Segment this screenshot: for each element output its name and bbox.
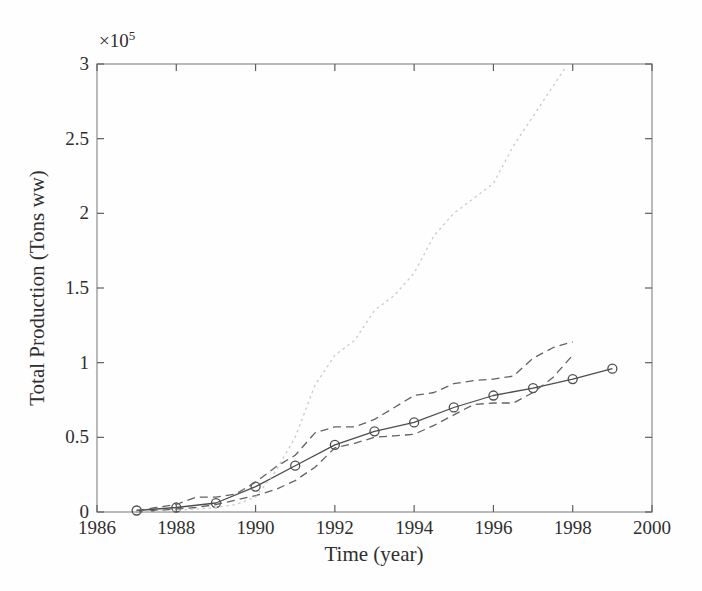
y-tick-label: 0.5	[65, 426, 89, 447]
x-axis-title: Time (year)	[325, 542, 424, 567]
chart-plot-svg: 1986198819901992199419961998200000.511.5…	[0, 0, 702, 591]
y-axis-scale-label: ×105	[99, 28, 135, 52]
x-tick-label: 1992	[316, 517, 354, 538]
y-tick-label: 1.5	[65, 277, 89, 298]
y-tick-label: 2.5	[65, 128, 89, 149]
x-tick-label: 1990	[237, 517, 275, 538]
series-observed-cumulative-production	[137, 369, 613, 511]
x-tick-label: 1998	[554, 517, 592, 538]
scale-base: ×10	[99, 30, 129, 51]
y-tick-label: 2	[80, 202, 90, 223]
series-simulation-dotted-light	[137, 69, 565, 513]
axes-box	[97, 64, 652, 512]
figure-canvas: 1986198819901992199419961998200000.511.5…	[0, 0, 702, 591]
scale-exponent: 5	[129, 28, 136, 43]
y-axis-title: Total Production (Tons ww)	[25, 170, 50, 406]
x-tick-label: 1988	[157, 517, 195, 538]
series-simulation-upper-dashed	[137, 342, 573, 511]
x-tick-label: 2000	[633, 517, 671, 538]
y-tick-label: 1	[80, 352, 90, 373]
x-tick-label: 1994	[395, 517, 434, 538]
y-tick-label: 3	[80, 53, 90, 74]
y-tick-label: 0	[80, 501, 90, 522]
series-simulation-lower-dashed	[137, 355, 573, 512]
x-tick-label: 1996	[474, 517, 512, 538]
